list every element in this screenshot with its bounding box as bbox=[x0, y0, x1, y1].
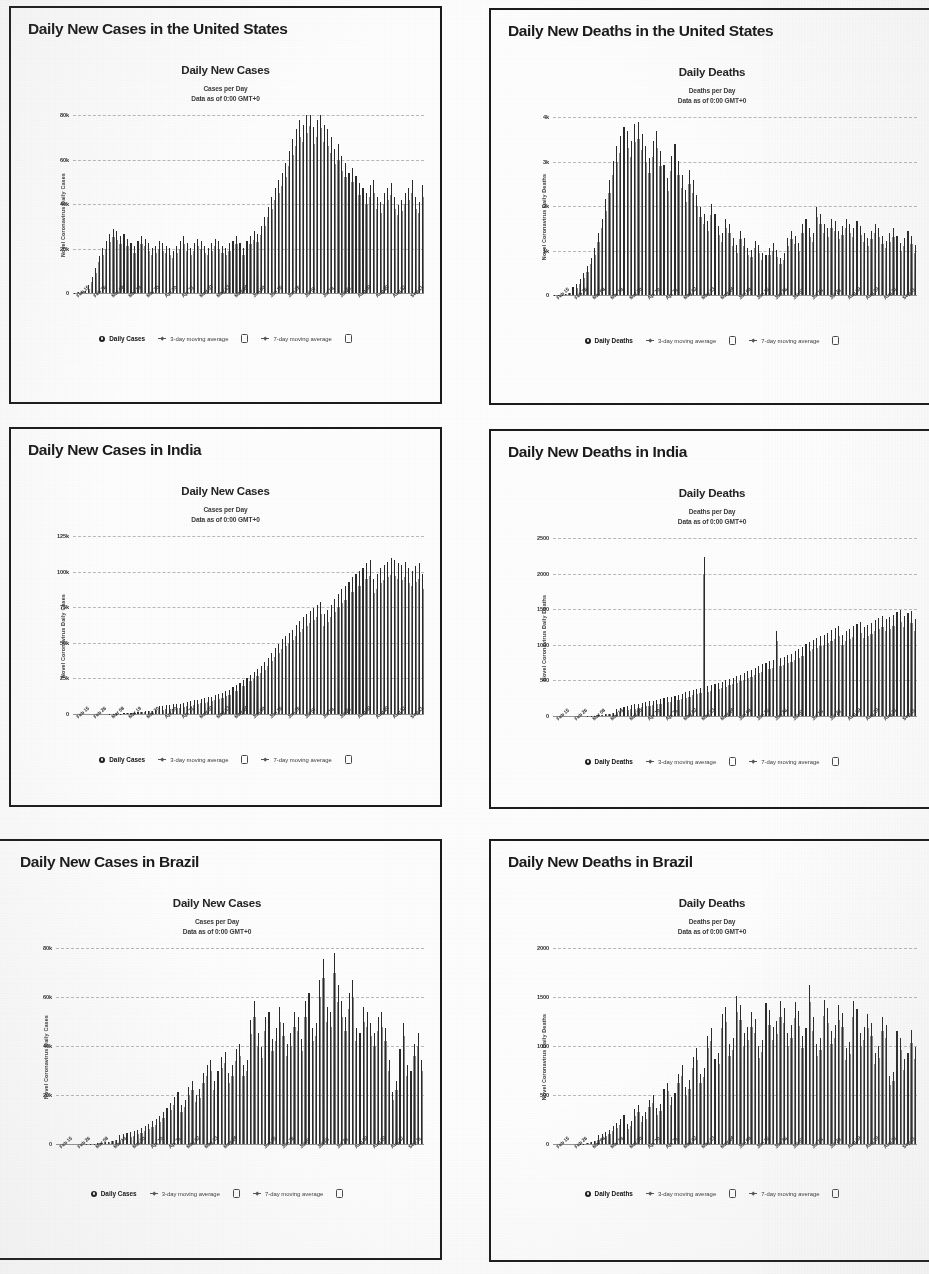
moving-average-marker bbox=[631, 141, 632, 295]
moving-average-marker bbox=[809, 642, 810, 716]
moving-average-marker bbox=[846, 631, 847, 716]
legend-item[interactable]: 3-day moving average bbox=[646, 1191, 716, 1197]
moving-average-marker bbox=[327, 1007, 328, 1144]
bar-series bbox=[553, 538, 917, 716]
legend-item[interactable] bbox=[345, 755, 352, 764]
moving-average-marker bbox=[638, 122, 639, 295]
legend-item[interactable]: 3-day moving average bbox=[646, 338, 716, 344]
y-axis-tick-label: 60k bbox=[43, 994, 52, 1000]
legend-item[interactable] bbox=[233, 1189, 240, 1198]
legend-label: Daily Cases bbox=[101, 1190, 137, 1197]
chart-subtitle-line1: Deaths per Day bbox=[491, 917, 929, 927]
legend-item[interactable] bbox=[729, 336, 736, 345]
legend-item[interactable] bbox=[832, 1189, 839, 1198]
chart-subtitle-line2: Data as of 0:00 GMT+0 bbox=[491, 927, 929, 937]
moving-average-marker bbox=[370, 185, 371, 293]
moving-average-marker bbox=[317, 605, 318, 714]
moving-average-marker bbox=[387, 562, 388, 715]
legend-item[interactable]: 7-day moving average bbox=[261, 757, 331, 763]
legend-item[interactable]: 3-day moving average bbox=[158, 757, 228, 763]
chart-title: Daily New Cases bbox=[11, 485, 440, 497]
moving-average-marker bbox=[755, 1019, 756, 1144]
moving-average-marker bbox=[751, 1012, 752, 1144]
legend-item[interactable] bbox=[241, 755, 248, 764]
moving-average-marker bbox=[317, 120, 318, 293]
chart-legend: Daily Deaths3-day moving average7-day mo… bbox=[491, 336, 929, 345]
moving-average-marker bbox=[380, 568, 381, 714]
moving-average-marker bbox=[334, 953, 335, 1144]
legend-item[interactable] bbox=[729, 757, 736, 766]
chart-subtitle-line1: Cases per Day bbox=[11, 84, 440, 94]
legend-item[interactable]: 7-day moving average bbox=[749, 759, 819, 765]
moving-average-marker bbox=[327, 610, 328, 714]
moving-average-marker bbox=[795, 236, 796, 295]
legend-item[interactable]: 7-day moving average bbox=[253, 1191, 323, 1197]
legend-item[interactable]: Daily Deaths bbox=[585, 1190, 633, 1197]
moving-average-marker bbox=[605, 199, 606, 295]
moving-average-marker bbox=[900, 610, 901, 716]
legend-item[interactable] bbox=[832, 336, 839, 345]
moving-average-marker bbox=[384, 565, 385, 714]
moving-average-marker bbox=[294, 1012, 295, 1144]
y-axis-tick-label: 0 bbox=[66, 711, 69, 717]
legend-item[interactable]: 3-day moving average bbox=[646, 759, 716, 765]
plot-area: Novel Coronavirus Daily Cases 020k40k60k… bbox=[23, 115, 426, 315]
moving-average-marker bbox=[210, 1060, 211, 1144]
moving-average-marker bbox=[733, 1038, 734, 1144]
bar-column bbox=[913, 538, 917, 716]
checkbox-icon bbox=[345, 755, 352, 764]
moving-average-marker bbox=[236, 236, 237, 293]
legend-item[interactable]: 3-day moving average bbox=[158, 336, 228, 342]
moving-average-marker bbox=[740, 231, 741, 295]
legend-item[interactable]: Daily Deaths bbox=[585, 758, 633, 765]
bar-column bbox=[421, 536, 425, 714]
legend-item[interactable]: 7-day moving average bbox=[749, 1191, 819, 1197]
moving-average-marker bbox=[398, 205, 399, 293]
y-axis-tick-label: 2k bbox=[543, 203, 549, 209]
bar-series bbox=[56, 948, 424, 1144]
x-axis-tick bbox=[421, 714, 425, 736]
moving-average-marker bbox=[674, 144, 675, 296]
moving-average-marker bbox=[831, 219, 832, 295]
moving-average-marker bbox=[418, 1033, 419, 1144]
legend-item[interactable]: Daily Deaths bbox=[585, 337, 633, 344]
moving-average-marker bbox=[704, 1068, 705, 1145]
moving-average-marker bbox=[278, 180, 279, 293]
moving-average-marker bbox=[627, 1124, 628, 1144]
moving-average-marker bbox=[279, 1007, 280, 1144]
legend-item[interactable]: 3-day moving average bbox=[150, 1191, 220, 1197]
moving-average-marker bbox=[197, 700, 198, 714]
legend-item[interactable] bbox=[345, 334, 352, 343]
legend-item[interactable] bbox=[241, 334, 248, 343]
legend-label: 3-day moving average bbox=[170, 757, 228, 763]
moving-average-marker bbox=[268, 658, 269, 714]
legend-item[interactable]: Daily Cases bbox=[99, 335, 145, 342]
panel-india-cases: Daily New Cases in India Daily New Cases… bbox=[9, 427, 442, 807]
legend-item[interactable] bbox=[832, 757, 839, 766]
y-axis-tick-label: 0 bbox=[546, 292, 549, 298]
chart-subtitle-line1: Cases per Day bbox=[0, 917, 440, 927]
moving-average-marker bbox=[725, 1007, 726, 1144]
legend-item[interactable] bbox=[729, 1189, 736, 1198]
moving-average-marker bbox=[816, 1044, 817, 1144]
moving-average-marker bbox=[744, 238, 745, 295]
y-axis-tick-label: 20k bbox=[43, 1092, 52, 1098]
moving-average-marker bbox=[378, 1017, 379, 1144]
legend-item[interactable]: Daily Cases bbox=[99, 756, 145, 763]
legend-item[interactable] bbox=[336, 1189, 343, 1198]
y-axis-tick-label: 1500 bbox=[537, 606, 549, 612]
moving-average-marker bbox=[616, 146, 617, 295]
legend-item[interactable]: 7-day moving average bbox=[261, 336, 331, 342]
legend-item[interactable]: Daily Cases bbox=[91, 1190, 137, 1197]
panel-brazil-deaths: Daily New Deaths in Brazil Daily Deaths … bbox=[489, 839, 929, 1262]
moving-average-marker bbox=[663, 698, 664, 716]
moving-average-marker bbox=[878, 1046, 879, 1144]
legend-label: 7-day moving average bbox=[265, 1191, 323, 1197]
moving-average-marker bbox=[594, 248, 595, 295]
y-axis-tick-label: 500 bbox=[540, 1092, 549, 1098]
moving-average-marker bbox=[645, 702, 646, 716]
filled-dot-icon bbox=[585, 1191, 591, 1197]
moving-average-marker bbox=[896, 612, 897, 716]
legend-item[interactable]: 7-day moving average bbox=[749, 338, 819, 344]
moving-average-marker bbox=[367, 1012, 368, 1144]
